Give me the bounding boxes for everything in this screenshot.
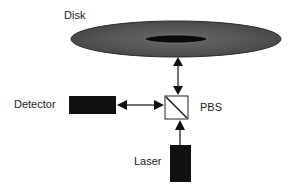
disk-shape [71, 21, 281, 57]
pbs-label: PBS [200, 102, 222, 113]
detector-label: Detector [14, 99, 56, 110]
pbs-cube [165, 96, 188, 119]
detector-block [69, 96, 116, 114]
detector-pbs-arrow [117, 100, 164, 110]
laser-block [170, 145, 191, 182]
laser-label: Laser [134, 156, 162, 167]
disk-pbs-arrow [173, 57, 183, 95]
disk-label: Disk [64, 10, 85, 21]
disk-hub [145, 35, 207, 43]
laser-pbs-arrow [175, 120, 185, 145]
